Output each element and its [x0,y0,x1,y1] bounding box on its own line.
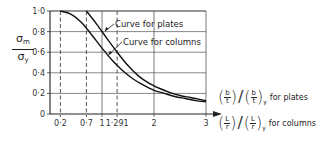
y-label-denominator: σy [12,50,34,66]
annotations: Curve for platesCurve for columns [105,19,202,55]
y-label-numerator: σm [12,33,34,50]
y-tick-label: 0·2 [32,89,45,98]
x-tick-label: 0·2 [54,119,67,128]
y-tick-label: 0·4 [32,69,45,78]
y-tick-label: 0 [40,110,45,119]
x-tick-label: 1 [99,119,104,128]
annotation-plates: Curve for plates [115,19,184,29]
x-tick-label: 3 [203,119,208,128]
y-tick-label: 1·0 [32,7,45,16]
y-axis-label: σm σy [12,33,34,66]
x-tick-label: 1·291 [106,119,129,128]
chart-canvas: 00·20·40·60·81·0 0·20·711·29123 Curve fo… [0,0,322,164]
x-tick-label: 0·7 [80,119,93,128]
x-axis-label-plates: (bt) / (bt) y for plates [218,89,308,105]
y-tick-label: 0·8 [32,28,45,37]
annotation-columns: Curve for columns [123,37,201,47]
annotation-arrow-icon [105,27,109,32]
x-tick-label: 2 [151,119,156,128]
x-axis-label-columns: (Lr) / (Lr) y for columns [218,115,316,131]
x-axis-ticks: 0·20·711·29123 [54,119,209,128]
y-axis-ticks: 00·20·40·60·81·0 [32,7,50,119]
y-tick-label: 0·6 [32,48,45,57]
